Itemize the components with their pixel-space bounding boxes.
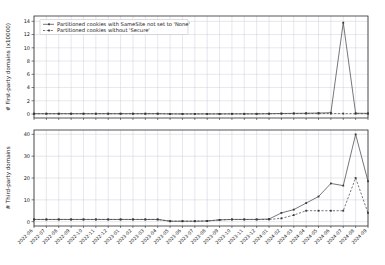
series-marker-bottom-1 bbox=[107, 219, 109, 221]
y-axis-title-top: # First-party domains (x10000) bbox=[5, 23, 12, 111]
series-marker-bottom-1 bbox=[281, 217, 283, 219]
series-marker-top-1 bbox=[318, 113, 320, 115]
legend-sample-marker-0 bbox=[48, 23, 50, 25]
series-marker-bottom-1 bbox=[268, 219, 270, 221]
series-marker-top-1 bbox=[144, 113, 146, 115]
series-marker-bottom-1 bbox=[231, 219, 233, 221]
series-marker-bottom-1 bbox=[182, 220, 184, 222]
figure-canvas: 02468101214# First-party domains (x10000… bbox=[0, 0, 385, 265]
series-marker-top-1 bbox=[293, 113, 295, 115]
y-tick-label-top-2: 4 bbox=[27, 84, 30, 90]
series-marker-top-1 bbox=[157, 113, 159, 115]
series-marker-top-1 bbox=[256, 113, 258, 115]
series-marker-top-1 bbox=[231, 113, 233, 115]
series-marker-top-1 bbox=[70, 113, 72, 115]
y-tick-label-top-5: 10 bbox=[24, 45, 30, 51]
series-marker-top-1 bbox=[355, 113, 357, 115]
series-marker-bottom-1 bbox=[243, 219, 245, 221]
y-axis-title-bottom: # Third-party domains bbox=[5, 146, 12, 209]
legend-sample-marker-1 bbox=[48, 30, 50, 32]
series-marker-bottom-1 bbox=[45, 219, 47, 221]
y-tick-label-bottom-0: 0 bbox=[27, 219, 30, 225]
y-tick-label-bottom-1: 10 bbox=[24, 197, 30, 203]
series-line-top-0 bbox=[34, 23, 368, 114]
legend-label-0: Partitioned cookies with SameSite not se… bbox=[57, 21, 190, 27]
series-marker-bottom-0 bbox=[342, 185, 344, 187]
series-marker-bottom-1 bbox=[219, 219, 221, 221]
series-marker-bottom-0 bbox=[305, 202, 307, 204]
series-marker-bottom-1 bbox=[293, 214, 295, 216]
series-marker-bottom-1 bbox=[83, 219, 85, 221]
series-marker-top-1 bbox=[182, 113, 184, 115]
series-marker-top-1 bbox=[243, 113, 245, 115]
series-marker-bottom-1 bbox=[206, 220, 208, 222]
y-tick-label-top-1: 2 bbox=[27, 98, 30, 104]
y-tick-label-top-4: 8 bbox=[27, 58, 30, 64]
series-marker-top-1 bbox=[95, 113, 97, 115]
series-marker-bottom-1 bbox=[342, 210, 344, 212]
series-marker-bottom-0 bbox=[281, 212, 283, 214]
series-marker-top-1 bbox=[281, 113, 283, 115]
series-marker-bottom-1 bbox=[367, 212, 369, 214]
series-marker-top-1 bbox=[342, 113, 344, 115]
series-marker-bottom-1 bbox=[318, 210, 320, 212]
series-marker-bottom-1 bbox=[33, 219, 35, 221]
series-marker-top-1 bbox=[83, 113, 85, 115]
y-tick-label-top-7: 14 bbox=[24, 18, 30, 24]
series-marker-bottom-1 bbox=[58, 219, 60, 221]
y-tick-label-top-3: 6 bbox=[27, 71, 30, 77]
y-tick-label-bottom-2: 20 bbox=[24, 175, 30, 181]
series-marker-top-1 bbox=[45, 113, 47, 115]
series-marker-bottom-1 bbox=[169, 220, 171, 222]
series-marker-bottom-0 bbox=[330, 183, 332, 185]
series-marker-top-1 bbox=[169, 113, 171, 115]
legend-label-1: Partitioned cookies without 'Secure' bbox=[57, 27, 150, 33]
series-marker-top-1 bbox=[194, 113, 196, 115]
series-marker-bottom-1 bbox=[330, 210, 332, 212]
series-marker-top-1 bbox=[219, 113, 221, 115]
series-marker-bottom-0 bbox=[293, 209, 295, 211]
series-marker-top-0 bbox=[342, 22, 344, 24]
series-marker-top-1 bbox=[132, 113, 134, 115]
y-tick-label-bottom-3: 30 bbox=[24, 153, 30, 159]
series-marker-bottom-0 bbox=[355, 133, 357, 135]
series-marker-bottom-1 bbox=[305, 210, 307, 212]
series-marker-bottom-1 bbox=[120, 219, 122, 221]
y-tick-label-bottom-4: 40 bbox=[24, 131, 30, 137]
series-marker-bottom-1 bbox=[256, 219, 258, 221]
series-marker-bottom-0 bbox=[367, 180, 369, 182]
series-marker-bottom-1 bbox=[194, 220, 196, 222]
series-marker-top-1 bbox=[107, 113, 109, 115]
series-marker-bottom-1 bbox=[355, 177, 357, 179]
series-marker-top-1 bbox=[367, 113, 369, 115]
series-marker-bottom-1 bbox=[157, 219, 159, 221]
y-tick-label-top-0: 0 bbox=[27, 111, 30, 117]
series-marker-bottom-1 bbox=[144, 219, 146, 221]
series-marker-top-1 bbox=[120, 113, 122, 115]
series-marker-top-1 bbox=[268, 113, 270, 115]
series-marker-top-1 bbox=[330, 113, 332, 115]
series-marker-top-1 bbox=[206, 113, 208, 115]
series-marker-top-1 bbox=[58, 113, 60, 115]
series-marker-bottom-1 bbox=[132, 219, 134, 221]
y-tick-label-top-6: 12 bbox=[24, 31, 30, 37]
series-marker-bottom-1 bbox=[70, 219, 72, 221]
series-marker-top-1 bbox=[305, 113, 307, 115]
series-marker-bottom-1 bbox=[95, 219, 97, 221]
series-marker-bottom-0 bbox=[318, 196, 320, 198]
series-marker-top-1 bbox=[33, 113, 35, 115]
